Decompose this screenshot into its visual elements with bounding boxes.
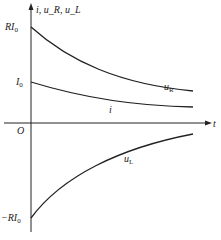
- curve-uL: [31, 134, 193, 218]
- t-axis-arrow-icon: [205, 121, 212, 126]
- y-axis-label: i, u_R, u_L: [36, 4, 81, 15]
- curve-label-i: i: [109, 104, 112, 115]
- rl-decay-diagram: i, u_R, u_L t O RI0 I0 −RI0 uR i uL: [0, 0, 221, 240]
- curve-label-uL: uL: [124, 153, 133, 166]
- t-axis-label: t: [213, 118, 216, 129]
- tick-label-RI0: RI0: [4, 21, 18, 34]
- origin-label: O: [17, 125, 24, 136]
- curve-label-uR: uR: [164, 81, 174, 94]
- y-axis-arrow-icon: [29, 3, 34, 10]
- tick-label-I0: I0: [15, 76, 23, 89]
- tick-label-negRI0: −RI0: [1, 212, 21, 225]
